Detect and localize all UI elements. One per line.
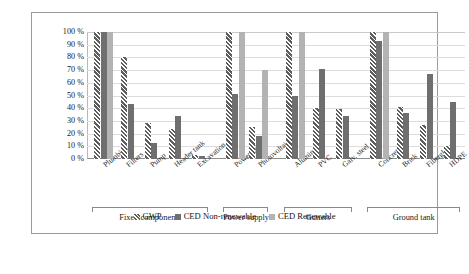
- plot-area: 100 %90 %80 %70 %60 %50 %40 %30 %20 %10 …: [87, 32, 465, 159]
- gridline: [87, 45, 465, 46]
- gridline: [87, 96, 465, 97]
- legend-swatch-icon: [269, 214, 275, 220]
- bar: [292, 96, 298, 160]
- bar: [383, 32, 389, 159]
- bar: [420, 125, 426, 159]
- bar: [370, 32, 376, 159]
- legend-swatch-icon: [175, 214, 181, 220]
- y-axis-tick-label: 40 %: [67, 104, 84, 112]
- bar: [286, 32, 292, 159]
- y-axis-tick-label: 80 %: [67, 53, 84, 61]
- gridline: [87, 83, 465, 84]
- legend-item[interactable]: GWP: [134, 212, 162, 221]
- bar: [107, 32, 113, 159]
- bar: [239, 32, 245, 159]
- bar: [192, 155, 198, 159]
- bar: [249, 127, 255, 159]
- y-axis-tick-label: 100 %: [63, 28, 84, 36]
- bar: [336, 109, 342, 159]
- bar: [199, 156, 205, 159]
- bar: [232, 94, 238, 159]
- y-axis-tick-label: 10 %: [67, 142, 84, 150]
- legend-item[interactable]: CED Renewable: [269, 212, 336, 221]
- chart-page: 100 %90 %80 %70 %60 %50 %40 %30 %20 %10 …: [0, 0, 469, 274]
- legend-label: CED Non-renewable: [184, 212, 256, 221]
- bar: [128, 104, 134, 159]
- bar: [262, 70, 268, 159]
- gridline: [87, 108, 465, 109]
- bar: [256, 136, 262, 159]
- y-axis-tick-label: 30 %: [67, 117, 84, 125]
- y-axis-tick-label: 90 %: [67, 41, 84, 49]
- bar: [145, 123, 151, 159]
- bar: [427, 74, 433, 159]
- bar: [343, 116, 349, 159]
- legend-item[interactable]: CED Non-renewable: [175, 212, 256, 221]
- bar: [175, 116, 181, 159]
- bar: [376, 41, 382, 159]
- bar: [313, 108, 319, 159]
- y-axis-tick-label: 70 %: [67, 66, 84, 74]
- bar: [444, 146, 450, 159]
- y-axis-tick-label: 60 %: [67, 79, 84, 87]
- bar: [397, 107, 403, 159]
- legend-label: GWP: [143, 212, 162, 221]
- group-bracket: [367, 207, 460, 212]
- bar: [299, 32, 305, 159]
- chart-legend: GWPCED Non-renewableCED Renewable: [32, 212, 437, 221]
- bar: [450, 102, 456, 159]
- bar: [121, 57, 127, 159]
- gridline: [87, 70, 465, 71]
- y-axis-tick-label: 0 %: [71, 155, 84, 163]
- y-axis-tick-label: 20 %: [67, 129, 84, 137]
- chart-frame: 100 %90 %80 %70 %60 %50 %40 %30 %20 %10 …: [31, 12, 438, 234]
- bar: [226, 32, 232, 159]
- y-axis-tick-label: 50 %: [67, 91, 84, 99]
- bar: [169, 129, 175, 159]
- bar: [101, 32, 107, 159]
- gridline: [87, 32, 465, 33]
- bar: [151, 143, 157, 160]
- bar: [319, 69, 325, 159]
- legend-swatch-icon: [134, 214, 140, 220]
- legend-label: CED Renewable: [278, 212, 336, 221]
- gridline: [87, 57, 465, 58]
- bar: [94, 32, 100, 159]
- bar: [403, 113, 409, 159]
